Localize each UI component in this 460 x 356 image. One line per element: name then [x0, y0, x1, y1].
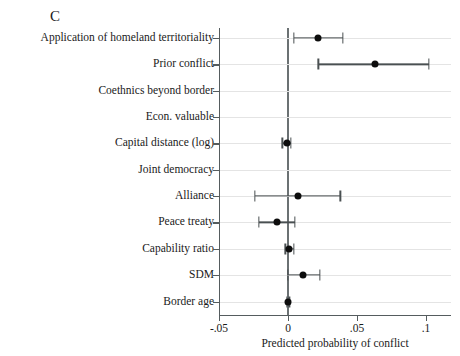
y-axis-line — [219, 28, 220, 315]
estimate-point — [371, 61, 378, 68]
estimate-point — [300, 272, 307, 279]
y-axis-tick — [213, 302, 219, 303]
x-axis-tick — [357, 316, 358, 321]
category-label: Border age — [0, 296, 214, 308]
confidence-interval-cap — [254, 191, 255, 202]
estimate-point — [315, 35, 322, 42]
x-axis-tick-label: .1 — [422, 322, 431, 334]
confidence-interval-cap — [319, 270, 320, 281]
y-axis-tick — [213, 196, 219, 197]
confidence-interval-cap — [293, 33, 294, 44]
category-label: Prior conflict — [0, 59, 214, 71]
gridline — [220, 275, 451, 276]
category-label-column: Application of homeland territorialityPr… — [0, 0, 214, 356]
x-axis-line — [219, 315, 451, 316]
y-axis-tick — [213, 222, 219, 223]
y-axis-tick — [213, 64, 219, 65]
estimate-point — [286, 245, 293, 252]
x-axis-tick — [219, 316, 220, 321]
category-label: Econ. valuable — [0, 111, 214, 123]
confidence-interval-cap — [340, 191, 341, 202]
category-label: Capital distance (log) — [0, 138, 214, 150]
confidence-interval-cap — [287, 270, 288, 281]
x-axis-tick — [288, 316, 289, 321]
category-label: Joint democracy — [0, 164, 214, 176]
x-axis-title: Predicted probability of conflict — [219, 337, 451, 349]
confidence-interval-cap — [343, 33, 344, 44]
y-axis-tick — [213, 143, 219, 144]
category-label: Coethnics beyond border — [0, 85, 214, 97]
y-axis-tick — [213, 170, 219, 171]
category-label: SDM — [0, 269, 214, 281]
x-axis-tick — [426, 316, 427, 321]
confidence-interval-cap — [258, 217, 259, 228]
y-axis-tick — [213, 91, 219, 92]
gridline — [220, 222, 451, 223]
coefficient-plot-figure: C Application of homeland territoriality… — [0, 0, 460, 356]
gridline — [220, 143, 451, 144]
estimate-point — [273, 219, 280, 226]
x-axis-tick-label: 0 — [285, 322, 291, 334]
category-label: Capability ratio — [0, 243, 214, 255]
estimate-point — [285, 298, 292, 305]
confidence-interval-cap — [294, 217, 295, 228]
confidence-interval-cap — [428, 59, 429, 70]
estimate-point — [283, 140, 290, 147]
confidence-interval-cap — [318, 59, 319, 70]
gridline — [220, 117, 451, 118]
gridline — [220, 302, 451, 303]
x-axis-tick-label: .05 — [350, 322, 364, 334]
y-axis-tick — [213, 38, 219, 39]
gridline — [220, 249, 451, 250]
plot-area: Application of homeland territorialityPr… — [0, 0, 460, 356]
y-axis-tick — [213, 249, 219, 250]
category-label: Application of homeland territoriality — [0, 32, 214, 44]
category-label: Alliance — [0, 190, 214, 202]
y-axis-tick — [213, 117, 219, 118]
gridline — [220, 91, 451, 92]
gridline — [220, 170, 451, 171]
confidence-interval-cap — [290, 138, 291, 149]
estimate-point — [294, 193, 301, 200]
category-label: Peace treaty — [0, 217, 214, 229]
x-axis-tick-label: -.05 — [210, 322, 228, 334]
confidence-interval-cap — [293, 243, 294, 254]
y-axis-tick — [213, 275, 219, 276]
